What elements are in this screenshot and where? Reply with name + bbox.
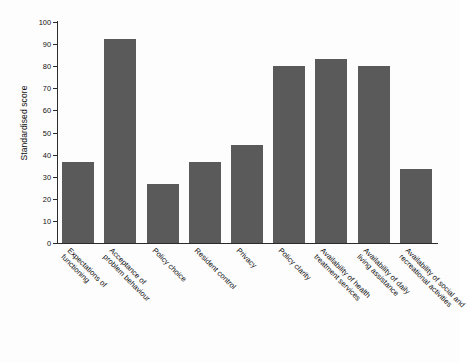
x-axis-label-line1: Privacy (235, 246, 259, 270)
x-axis-line (57, 243, 438, 244)
y-tick-label: 30 (43, 172, 51, 181)
x-axis-label-line1: Availability of social and (404, 246, 467, 309)
x-axis-label: Policy clarity (277, 246, 313, 282)
bars-layer (57, 22, 437, 243)
x-axis-label: Availability of social andrecreational a… (397, 246, 467, 316)
bar (315, 59, 347, 243)
y-tick-mark (53, 243, 57, 244)
y-tick-label: 20 (43, 194, 51, 203)
plot-area: 0102030405060708090100 (57, 22, 437, 243)
bar (358, 66, 390, 243)
bar (231, 145, 263, 243)
x-axis-labels: Expectations offunctioningAcceptance ofp… (57, 246, 438, 362)
x-axis-label: Acceptance ofproblem behaviour (101, 246, 159, 304)
y-tick-label: 100 (39, 18, 51, 27)
y-tick-label: 60 (43, 106, 51, 115)
x-axis-label: Resident control (192, 246, 237, 291)
y-tick-label: 80 (43, 62, 51, 71)
bar (147, 184, 179, 243)
x-axis-label: Privacy (234, 246, 258, 270)
y-tick-label: 90 (43, 40, 51, 49)
bar (104, 39, 136, 243)
x-axis-label: Policy choice (150, 246, 188, 284)
y-tick-label: 40 (43, 150, 51, 159)
bar (189, 162, 221, 243)
y-tick-label: 0 (47, 239, 51, 248)
y-tick-label: 50 (43, 128, 51, 137)
x-axis-label-line1: Policy clarity (277, 246, 313, 282)
bar (400, 169, 432, 243)
x-axis-label-line1: Policy choice (150, 246, 188, 284)
y-tick-label: 70 (43, 84, 51, 93)
bar (273, 66, 305, 243)
y-tick-label: 10 (43, 216, 51, 225)
y-axis-title: Standardised score (17, 3, 31, 243)
x-axis-label: Expectations offunctioning (59, 246, 109, 296)
x-axis-label-line1: Resident control (192, 246, 237, 291)
bar (62, 162, 94, 243)
